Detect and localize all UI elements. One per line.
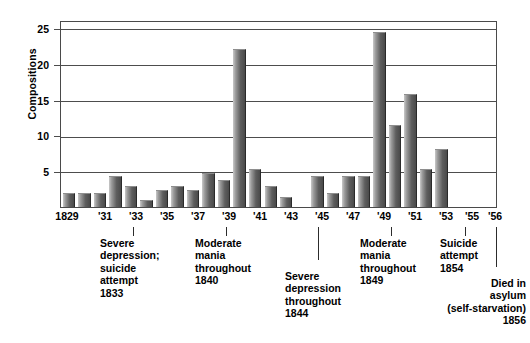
gridline-25 <box>61 29 496 30</box>
bar-1847 <box>342 176 354 207</box>
bar-1840 <box>233 49 245 207</box>
bar-1830 <box>78 193 90 207</box>
y-tick-label-5: 5 <box>0 167 49 178</box>
bar-1851 <box>404 94 416 207</box>
bar-1837 <box>187 190 199 207</box>
bar-1831 <box>94 193 106 207</box>
bar-1853 <box>435 149 447 207</box>
leader-line-1844 <box>318 227 319 260</box>
bar-1832 <box>109 176 121 207</box>
bar-1843 <box>280 197 292 207</box>
bar-1836 <box>171 186 183 207</box>
bar-1829 <box>63 193 75 207</box>
leader-line-1833 <box>133 227 134 236</box>
bar-1842 <box>265 186 277 207</box>
bar-1835 <box>156 190 168 207</box>
annotation-moderate-mania-1840: Moderate mania throughout 1840 <box>195 237 280 287</box>
bar-1833 <box>125 186 137 207</box>
bar-1850 <box>389 125 401 207</box>
y-tick-label-25: 25 <box>0 24 49 35</box>
gridline-10 <box>61 137 496 138</box>
bar-1838 <box>202 173 214 207</box>
y-tick-label-20: 20 <box>0 60 49 71</box>
leader-line-1849 <box>391 227 392 236</box>
y-tick-label-10: 10 <box>0 131 49 142</box>
y-tick-label-15: 15 <box>0 96 49 107</box>
bar-1849 <box>373 32 385 207</box>
gridline-20 <box>61 65 496 66</box>
chart-root: Compositions 25 20 15 10 5 1829 '31 '33 … <box>0 0 530 343</box>
bar-1848 <box>358 176 370 207</box>
x-tick-label-1829: 1829 <box>47 211 87 222</box>
y-axis-title: Compositions <box>26 24 38 144</box>
bar-1846 <box>327 193 339 207</box>
leader-line-1854 <box>465 227 466 236</box>
leader-line-1856 <box>496 227 497 267</box>
plot-area <box>60 21 497 208</box>
gridline-15 <box>61 101 496 102</box>
bar-1841 <box>249 169 261 207</box>
annotation-died-in-asylum-1856: Died in asylum (self-starvation) 1856 <box>370 277 526 327</box>
bar-1839 <box>218 180 230 207</box>
bar-1845 <box>311 176 323 207</box>
bar-1834 <box>140 200 152 207</box>
annotation-severe-depression-1833: Severe depression; suicide attempt 1833 <box>100 237 185 299</box>
annotation-suicide-attempt-1854: Suicide attempt 1854 <box>440 237 496 274</box>
annotation-severe-depression-1844: Severe depression throughout 1844 <box>285 270 370 320</box>
leader-line-1840 <box>226 227 227 236</box>
bar-1852 <box>420 169 432 207</box>
x-tick-label-1856: '56 <box>475 211 515 222</box>
